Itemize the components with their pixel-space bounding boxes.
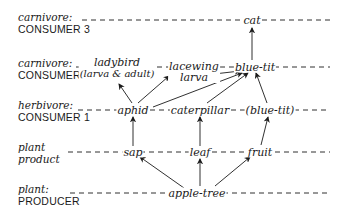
level-label-producer: plant: PRODUCER [18, 183, 80, 207]
node-ladybird-name: ladybird [80, 57, 155, 68]
node-lacewing-stage: larva [169, 72, 219, 83]
level-label-consumer3: carnivore: CONSUMER 3 [18, 11, 90, 35]
level-role: plant: [18, 183, 80, 195]
level-role: carnivore: [18, 11, 90, 23]
node-lacewing-larva: lacewing larva [168, 61, 220, 83]
level-name: PRODUCER [18, 195, 80, 207]
arrow-appletree-fruit [215, 157, 250, 186]
node-cat: cat [242, 15, 261, 26]
level-role: plant [18, 141, 60, 153]
level-label-consumer1: herbivore: CONSUMER 1 [18, 99, 90, 123]
node-leaf: leaf [189, 147, 212, 158]
level-name: product [18, 153, 60, 165]
arrow-aphid-ladybird [119, 84, 132, 103]
node-caterpillar: caterpillar [170, 105, 230, 116]
level-role: herbivore: [18, 99, 90, 111]
arrow-fruit-bluetit-paren [261, 117, 268, 145]
node-apple-tree: apple-tree [167, 188, 226, 199]
arrow-appletree-sap [140, 157, 184, 188]
level-name: CONSUMER 3 [18, 23, 90, 35]
node-blue-tit: blue-tit [234, 62, 276, 73]
arrow-aphid-lacewing [138, 76, 169, 103]
node-fruit: fruit [247, 147, 273, 158]
node-sap: sap [122, 147, 143, 158]
node-blue-tit-secondary: (blue-tit) [245, 105, 296, 116]
node-aphid: aphid [116, 105, 149, 116]
level-label-plant-product: plant product [18, 141, 60, 165]
level-name: CONSUMER 1 [18, 111, 90, 123]
node-ladybird-stage: (larva & adult) [80, 68, 155, 79]
arrow-bluetit-paren-bluetit [256, 73, 267, 103]
node-ladybird: ladybird (larva & adult) [79, 57, 156, 79]
